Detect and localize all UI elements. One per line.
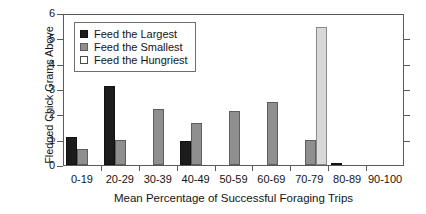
bar	[267, 102, 278, 165]
legend-item: Feed the Smallest	[80, 41, 188, 53]
bar	[77, 149, 88, 165]
bar	[180, 141, 191, 165]
y-tick-label: 0	[41, 159, 55, 171]
y-tick-mark-right	[404, 90, 410, 91]
x-axis-title: Mean Percentage of Successful Foraging T…	[63, 192, 404, 204]
legend-label: Feed the Largest	[94, 28, 177, 40]
x-tick-mark	[177, 166, 178, 171]
y-tick-mark-right	[404, 39, 410, 40]
bar	[104, 86, 115, 165]
y-tick-label: 1	[41, 134, 55, 146]
bar	[191, 123, 202, 165]
y-tick-mark-right	[404, 65, 410, 66]
x-tick-label: 90-100	[359, 173, 411, 185]
y-tick-label: 2	[41, 108, 55, 120]
bar	[153, 109, 164, 165]
y-tick-label: 6	[41, 7, 55, 19]
legend-swatch-icon	[80, 56, 88, 64]
x-tick-mark	[139, 166, 140, 171]
y-tick-mark-right	[404, 141, 410, 142]
legend-label: Feed the Smallest	[94, 41, 183, 53]
legend-item: Feed the Largest	[80, 28, 188, 40]
legend-item: Feed the Hungriest	[80, 54, 188, 66]
bar	[115, 140, 126, 165]
legend-swatch-icon	[80, 30, 88, 38]
y-tick-label: 5	[41, 32, 55, 44]
bar	[66, 137, 77, 165]
x-tick-mark	[290, 166, 291, 171]
legend-label: Feed the Hungriest	[94, 54, 188, 66]
y-tick-mark	[57, 166, 63, 167]
y-tick-label: 3	[41, 83, 55, 95]
x-tick-mark	[101, 166, 102, 171]
bar	[305, 140, 316, 165]
bar	[316, 27, 327, 165]
legend-swatch-icon	[80, 43, 88, 51]
y-tick-label: 4	[41, 58, 55, 70]
x-tick-mark	[328, 166, 329, 171]
chart-figure: Fledged Chick Grams Above Random Feeding…	[0, 0, 426, 214]
y-tick-mark-right	[404, 115, 410, 116]
bar	[331, 163, 342, 165]
x-tick-mark	[366, 166, 367, 171]
x-tick-mark	[215, 166, 216, 171]
bar	[229, 111, 240, 165]
chart-legend: Feed the LargestFeed the SmallestFeed th…	[74, 22, 196, 72]
x-tick-mark	[252, 166, 253, 171]
